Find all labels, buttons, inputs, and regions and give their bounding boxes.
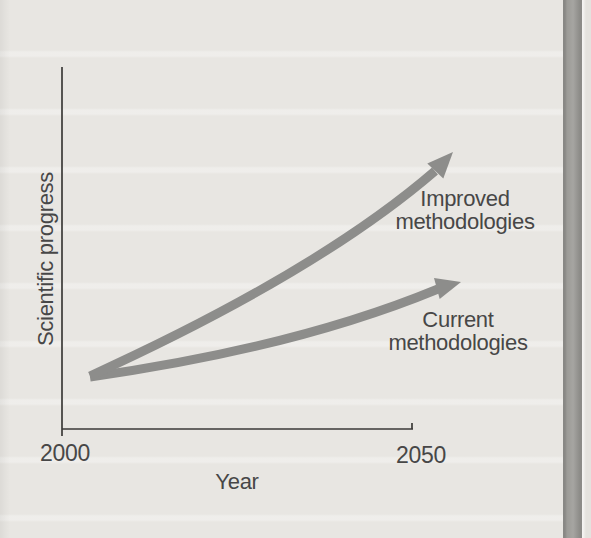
current-arrow-head <box>434 278 461 299</box>
current-methodologies-label: Current methodologies <box>378 308 538 354</box>
improved-methodologies-label: Improved methodologies <box>385 187 545 233</box>
page-edge-strip <box>582 0 591 538</box>
page-gutter-bar <box>563 0 582 538</box>
x-tick-2000: 2000 <box>25 440 105 467</box>
x-axis-label: Year <box>197 469 277 495</box>
y-axis-label: Scientific progress <box>33 159 59 359</box>
x-axis-line <box>62 423 413 429</box>
figure-canvas: Scientific progress 2000 2050 Year Impro… <box>0 0 591 538</box>
x-tick-2050: 2050 <box>381 442 461 469</box>
